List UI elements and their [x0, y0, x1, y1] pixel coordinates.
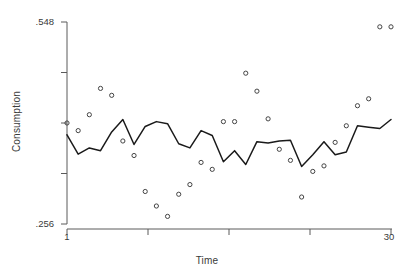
scatter-point — [244, 71, 248, 75]
scatter-point — [389, 25, 393, 29]
scatter-point — [76, 129, 80, 133]
scatter-point — [255, 89, 259, 93]
scatter-point — [110, 93, 114, 97]
scatter-series — [65, 25, 393, 219]
scatter-point — [143, 189, 147, 193]
x-axis-ticks — [67, 229, 391, 235]
scatter-point — [132, 153, 136, 157]
scatter-point — [221, 120, 225, 124]
y-axis-title: Consumption — [11, 77, 22, 167]
scatter-point — [87, 113, 91, 117]
scatter-point — [121, 139, 125, 143]
scatter-point — [378, 25, 382, 29]
scatter-point — [165, 214, 169, 218]
scatter-point — [154, 204, 158, 208]
scatter-point — [188, 182, 192, 186]
x-axis-tick-label-max: 30 — [378, 231, 400, 242]
scatter-point — [232, 120, 236, 124]
scatter-point — [210, 167, 214, 171]
scatter-point — [277, 147, 281, 151]
x-axis-title: Time — [0, 255, 414, 266]
y-axis-ticks — [61, 22, 67, 224]
scatter-point — [199, 160, 203, 164]
scatter-point — [344, 124, 348, 128]
fitted-line-series — [67, 120, 391, 167]
chart-axes — [61, 22, 392, 235]
scatter-point — [288, 158, 292, 162]
fitted-line-path — [67, 120, 391, 167]
scatter-point — [266, 117, 270, 121]
scatter-point — [333, 140, 337, 144]
scatter-point — [311, 169, 315, 173]
x-axis-tick-label-min: 1 — [57, 231, 77, 242]
y-axis-tick-label-max: .548 — [8, 16, 54, 27]
scatter-point — [322, 164, 326, 168]
scatter-point — [98, 86, 102, 90]
y-axis-tick-label-min: .256 — [8, 218, 54, 229]
scatter-point — [177, 192, 181, 196]
scatter-point — [300, 195, 304, 199]
chart-container: .548 .256 1 30 Consumption Time — [0, 0, 414, 277]
scatter-point — [355, 104, 359, 108]
scatter-point — [367, 97, 371, 101]
